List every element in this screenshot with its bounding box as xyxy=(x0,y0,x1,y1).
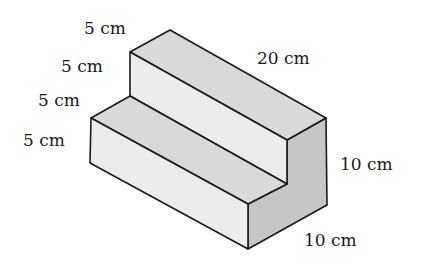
label-lower-step-depth: 5 cm xyxy=(38,92,80,109)
label-lower-step-height: 5 cm xyxy=(23,132,65,149)
label-total-width: 10 cm xyxy=(304,232,357,249)
label-length: 20 cm xyxy=(257,50,310,67)
label-total-height: 10 cm xyxy=(340,156,393,173)
label-upper-step-depth: 5 cm xyxy=(84,20,126,37)
label-upper-step-height: 5 cm xyxy=(61,58,103,75)
